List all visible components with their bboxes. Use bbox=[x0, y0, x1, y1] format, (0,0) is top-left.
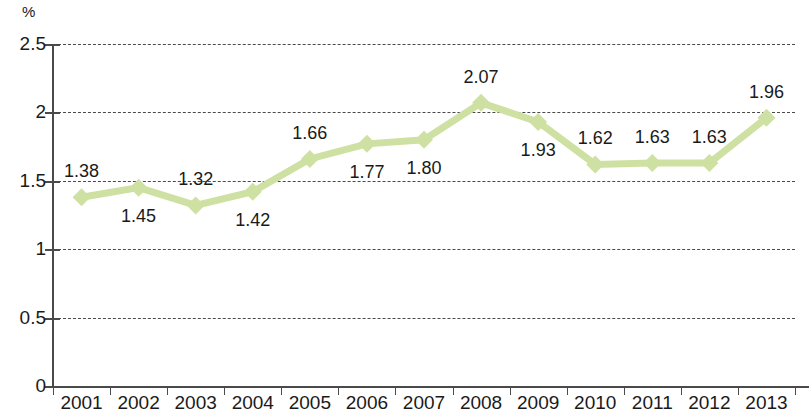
data-point-label: 1.93 bbox=[521, 141, 556, 159]
data-point-label: 1.80 bbox=[406, 159, 441, 177]
data-point-label: 2.07 bbox=[464, 68, 499, 86]
data-point-label: 1.96 bbox=[749, 83, 784, 101]
data-point-label: 1.62 bbox=[578, 129, 613, 147]
data-point-label: 1.63 bbox=[692, 128, 727, 146]
data-point-marker bbox=[73, 188, 91, 206]
data-point-label: 1.42 bbox=[235, 211, 270, 229]
line-chart: % 00.511.522.5 2001200220032004200520062… bbox=[0, 0, 809, 416]
data-point-marker bbox=[358, 135, 376, 153]
data-point-label: 1.38 bbox=[64, 162, 99, 180]
data-point-marker bbox=[643, 154, 661, 172]
data-point-label: 1.77 bbox=[349, 163, 384, 181]
data-point-label: 1.66 bbox=[292, 124, 327, 142]
data-point-label: 1.32 bbox=[178, 170, 213, 188]
data-point-marker bbox=[187, 196, 205, 214]
data-point-marker bbox=[130, 179, 148, 197]
data-point-label: 1.45 bbox=[121, 207, 156, 225]
data-point-label: 1.63 bbox=[635, 128, 670, 146]
